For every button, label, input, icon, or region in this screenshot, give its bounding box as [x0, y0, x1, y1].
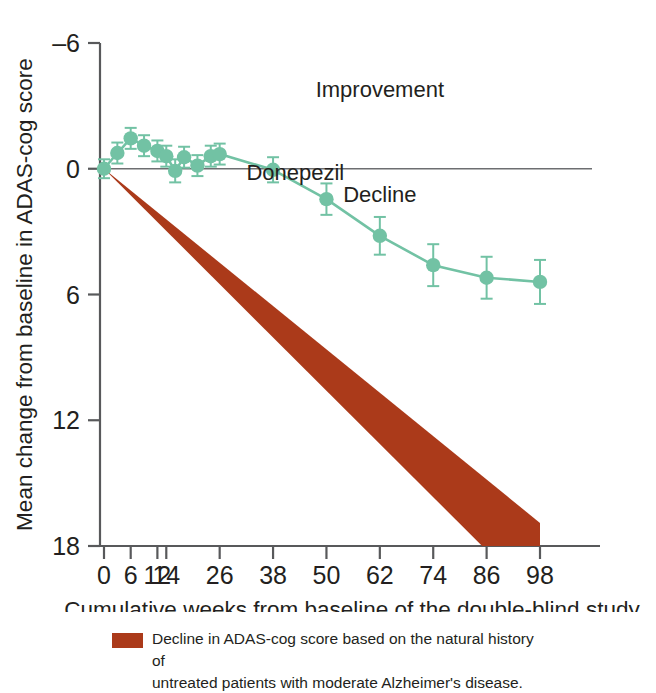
donepezil-data-point — [319, 183, 333, 214]
x-axis-tick-label: 38 — [259, 561, 287, 589]
series-label-donepezil: Donepezil — [246, 160, 344, 185]
donepezil-data-point — [137, 135, 151, 156]
x-axis-tick-label: 62 — [366, 561, 394, 589]
annotation-decline: Decline — [343, 182, 416, 207]
x-axis-tick-label: 50 — [313, 561, 341, 589]
caption-line-1: Decline in ADAS-cog score based on the n… — [152, 630, 534, 669]
legend-swatch-decline-band — [112, 633, 143, 648]
adas-cog-line-chart: –606121806121426385062748698ImprovementD… — [0, 0, 656, 612]
donepezil-data-point — [190, 155, 204, 176]
donepezil-marker — [110, 146, 124, 160]
y-axis-title: Mean change from baseline in ADAS-cog sc… — [12, 58, 37, 531]
chart-caption: Decline in ADAS-cog score based on the n… — [0, 628, 656, 693]
donepezil-marker — [137, 138, 151, 152]
x-axis-tick-label: 6 — [124, 561, 138, 589]
donepezil-marker — [373, 229, 387, 243]
x-axis-tick-label: 86 — [473, 561, 501, 589]
y-axis-tick-label: 18 — [52, 532, 80, 560]
x-axis-tick-label: 14 — [152, 561, 180, 589]
donepezil-data-point — [479, 257, 493, 299]
x-axis-title: Cumulative weeks from baseline of the do… — [64, 597, 640, 612]
x-axis-tick-label: 74 — [419, 561, 447, 589]
caption-text: Decline in ADAS-cog score based on the n… — [152, 628, 544, 693]
donepezil-marker — [123, 131, 137, 145]
donepezil-marker — [479, 271, 493, 285]
donepezil-marker — [168, 164, 182, 178]
y-axis-tick-label: 6 — [66, 281, 80, 309]
y-axis-tick-label: 0 — [66, 155, 80, 183]
donepezil-marker — [212, 147, 226, 161]
donepezil-marker — [533, 275, 547, 289]
x-axis-tick-label: 98 — [526, 561, 554, 589]
y-axis-tick-label: –6 — [52, 29, 80, 57]
chart-figure: –606121806121426385062748698ImprovementD… — [0, 0, 656, 693]
donepezil-marker — [426, 258, 440, 272]
caption-line-2: untreated patients with moderate Alzheim… — [152, 674, 523, 691]
donepezil-marker — [319, 192, 333, 206]
annotation-improvement: Improvement — [316, 77, 444, 102]
donepezil-data-point — [533, 260, 547, 304]
donepezil-marker — [190, 158, 204, 172]
donepezil-data-point — [373, 217, 387, 255]
decline-band-wedge — [104, 169, 540, 546]
x-axis-tick-label: 26 — [206, 561, 234, 589]
donepezil-marker — [177, 150, 191, 164]
x-axis-tick-label: 0 — [97, 561, 111, 589]
donepezil-marker — [159, 149, 173, 163]
y-axis-tick-label: 12 — [52, 406, 80, 434]
donepezil-marker — [97, 162, 111, 176]
donepezil-data-point — [426, 244, 440, 286]
